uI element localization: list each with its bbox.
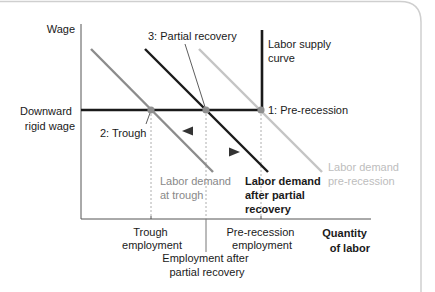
- rigid-wage-label: Downward rigid wage: [20, 105, 75, 132]
- demand-partial-label: Labor demand after partial recovery: [245, 175, 324, 215]
- point-trough: [147, 106, 154, 113]
- supply-curve: [81, 30, 262, 110]
- arrow-right-head: [229, 148, 240, 157]
- point-pre: [257, 106, 264, 113]
- point-partial-label: 3: Partial recovery: [148, 30, 237, 42]
- labor-market-diagram: Wage Downward rigid wage Quantity of lab…: [0, 0, 435, 292]
- supply-curve-label: Labor supply curve: [268, 38, 334, 64]
- arrow-left-head: [182, 127, 193, 136]
- point-trough-label: 2: Trough: [100, 127, 146, 139]
- trough-employment-label: Trough employment: [122, 226, 182, 251]
- partial-employment-label: Employment after partial recovery: [162, 252, 251, 278]
- demand-trough-label: Labor demand at trough: [160, 175, 234, 201]
- point-pre-label: 1: Pre-recession: [268, 104, 348, 116]
- callout-trough-leader: [146, 113, 150, 124]
- x-axis-label: Quantity of labor: [322, 227, 370, 254]
- point-partial: [202, 106, 209, 113]
- demand-pre-label: Labor demand pre-recession: [328, 161, 402, 187]
- pre-recession-employment-label: Pre-recession employment: [227, 226, 298, 251]
- y-axis-label: Wage: [47, 23, 75, 35]
